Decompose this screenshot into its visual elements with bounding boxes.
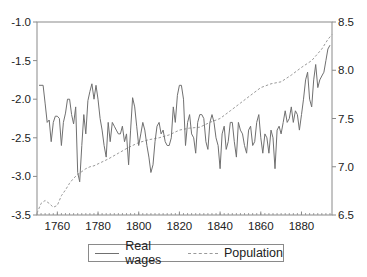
y-axis-right: 8.58.07.57.06.5 bbox=[332, 16, 354, 221]
real-wages-series-line bbox=[39, 45, 330, 182]
chart-legend: Real wages Population bbox=[88, 244, 284, 262]
x-tick-label: 1800 bbox=[126, 220, 152, 232]
x-tick-label: 1780 bbox=[85, 220, 111, 232]
y-right-tick-label: 6.5 bbox=[338, 209, 354, 221]
dual-axis-line-chart: 1760178018001820184018601880 -1.0-1.5-2.… bbox=[0, 0, 367, 277]
legend-label: Population bbox=[224, 246, 283, 260]
x-tick-label: 1880 bbox=[289, 220, 315, 232]
y-right-tick-label: 7.5 bbox=[338, 113, 354, 125]
legend-item-population: Population bbox=[188, 246, 283, 260]
y-left-tick-label: -1.0 bbox=[11, 16, 31, 28]
y-left-tick-label: -2.5 bbox=[11, 132, 31, 144]
y-right-tick-label: 8.5 bbox=[338, 16, 354, 28]
legend-item-real-wages: Real wages bbox=[95, 239, 178, 267]
y-left-tick-label: -1.5 bbox=[11, 55, 31, 67]
solid-line-swatch-icon bbox=[95, 253, 119, 254]
x-tick-label: 1840 bbox=[207, 220, 233, 232]
y-left-tick-label: -3.5 bbox=[11, 209, 31, 221]
dashed-line-swatch-icon bbox=[188, 253, 218, 254]
y-left-tick-label: -2.0 bbox=[11, 93, 31, 105]
legend-label: Real wages bbox=[125, 239, 178, 267]
x-tick-label: 1820 bbox=[167, 220, 193, 232]
y-left-tick-label: -3.0 bbox=[11, 170, 31, 182]
y-axis-left: -1.0-1.5-2.0-2.5-3.0-3.5 bbox=[11, 16, 37, 221]
y-right-tick-label: 7.0 bbox=[338, 161, 354, 173]
x-tick-label: 1860 bbox=[248, 220, 274, 232]
y-right-tick-label: 8.0 bbox=[338, 64, 354, 76]
x-tick-label: 1760 bbox=[45, 220, 71, 232]
